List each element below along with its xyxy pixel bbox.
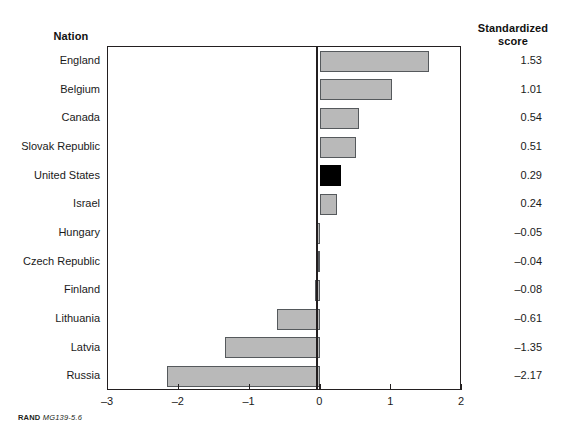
standardized-score-column-header: Standardized score bbox=[470, 22, 556, 48]
bar-czech-republic bbox=[318, 251, 321, 272]
value-label-slovak-republic: 0.51 bbox=[470, 132, 542, 161]
bar-slovak-republic bbox=[320, 137, 356, 158]
bar-row bbox=[108, 305, 460, 334]
figure-source-note: RAND MG139-5.6 bbox=[18, 413, 82, 422]
bar-row bbox=[108, 190, 460, 219]
category-label-column: EnglandBelgiumCanadaSlovak RepublicUnite… bbox=[0, 46, 100, 390]
category-label-cell: Israel bbox=[0, 189, 100, 218]
category-label-hungary: Hungary bbox=[0, 218, 100, 247]
bar-row bbox=[108, 162, 460, 191]
bar-row bbox=[108, 276, 460, 305]
value-label-russia: –2.17 bbox=[470, 361, 542, 390]
value-label-column: 1.531.010.540.510.290.24–0.05–0.04–0.08–… bbox=[470, 46, 556, 390]
category-label-cell: United States bbox=[0, 161, 100, 190]
category-label-cell: Slovak Republic bbox=[0, 132, 100, 161]
category-label-cell: Russia bbox=[0, 361, 100, 390]
x-tick-mark bbox=[461, 384, 462, 390]
bar-row bbox=[108, 133, 460, 162]
category-label-cell: Czech Republic bbox=[0, 247, 100, 276]
plot-area bbox=[107, 46, 461, 390]
bar-belgium bbox=[320, 79, 392, 100]
category-label-finland: Finland bbox=[0, 275, 100, 304]
x-tick-label: –1 bbox=[234, 395, 264, 407]
category-label-canada: Canada bbox=[0, 103, 100, 132]
category-label-cell: Belgium bbox=[0, 75, 100, 104]
bar-row bbox=[108, 76, 460, 105]
category-label-israel: Israel bbox=[0, 189, 100, 218]
category-label-cell: Hungary bbox=[0, 218, 100, 247]
x-tick-mark bbox=[390, 384, 391, 390]
value-label-lithuania: –0.61 bbox=[470, 304, 542, 333]
bar-row bbox=[108, 47, 460, 76]
x-tick-mark bbox=[178, 384, 179, 390]
category-label-united-states: United States bbox=[0, 161, 100, 190]
bar-latvia bbox=[225, 337, 321, 358]
value-label-canada: 0.54 bbox=[470, 103, 542, 132]
zero-baseline bbox=[316, 47, 318, 389]
category-label-lithuania: Lithuania bbox=[0, 304, 100, 333]
nation-column-header: Nation bbox=[27, 30, 115, 42]
value-label-czech-republic: –0.04 bbox=[470, 247, 542, 276]
bar-row bbox=[108, 362, 460, 391]
x-tick-mark bbox=[249, 384, 250, 390]
x-tick-label: –3 bbox=[92, 395, 122, 407]
rand-brand-label: RAND bbox=[18, 413, 40, 422]
x-tick-label: 2 bbox=[446, 395, 476, 407]
category-label-cell: England bbox=[0, 46, 100, 75]
x-tick-mark bbox=[107, 384, 108, 390]
category-label-england: England bbox=[0, 46, 100, 75]
bar-row bbox=[108, 104, 460, 133]
category-label-cell: Canada bbox=[0, 103, 100, 132]
category-label-russia: Russia bbox=[0, 361, 100, 390]
bar-israel bbox=[320, 194, 337, 215]
category-label-slovak-republic: Slovak Republic bbox=[0, 132, 100, 161]
bar-row bbox=[108, 334, 460, 363]
bar-row bbox=[108, 248, 460, 277]
x-tick-label: 0 bbox=[304, 395, 334, 407]
x-tick-label: –2 bbox=[163, 395, 193, 407]
value-label-finland: –0.08 bbox=[470, 275, 542, 304]
value-label-united-states: 0.29 bbox=[470, 161, 542, 190]
category-label-latvia: Latvia bbox=[0, 333, 100, 362]
bar-united-states bbox=[320, 165, 341, 186]
category-label-belgium: Belgium bbox=[0, 75, 100, 104]
x-tick-label: 1 bbox=[375, 395, 405, 407]
bar-lithuania bbox=[277, 309, 320, 330]
bar-row bbox=[108, 219, 460, 248]
category-label-czech-republic: Czech Republic bbox=[0, 247, 100, 276]
bar-canada bbox=[320, 108, 358, 129]
bar-england bbox=[320, 51, 428, 72]
score-header-line1: Standardized bbox=[478, 22, 548, 34]
category-label-cell: Lithuania bbox=[0, 304, 100, 333]
value-label-belgium: 1.01 bbox=[470, 75, 542, 104]
bar-russia bbox=[167, 366, 321, 387]
x-tick-mark bbox=[319, 384, 320, 390]
value-label-hungary: –0.05 bbox=[470, 218, 542, 247]
category-label-cell: Finland bbox=[0, 275, 100, 304]
value-label-israel: 0.24 bbox=[470, 189, 542, 218]
standardized-score-bar-chart: Nation Standardized score EnglandBelgium… bbox=[0, 0, 563, 438]
figure-doc-id: MG139-5.6 bbox=[43, 413, 82, 422]
value-label-england: 1.53 bbox=[470, 46, 542, 75]
x-axis: –3–2–1012 bbox=[107, 390, 461, 416]
category-label-cell: Latvia bbox=[0, 333, 100, 362]
value-label-latvia: –1.35 bbox=[470, 333, 542, 362]
